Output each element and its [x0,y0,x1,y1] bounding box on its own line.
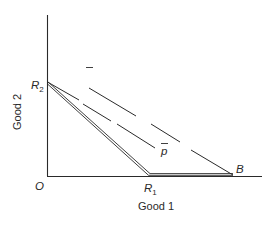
origin-label: O [35,180,44,192]
point-label-r2: R2 [31,79,44,94]
svg-text:p: p [160,145,168,157]
price-line-upper [89,88,233,175]
price-line-lower [48,82,156,148]
x-axis-label: Good 1 [138,200,174,212]
y-axis-label: Good 2 [11,94,23,130]
price-label-lower: p [160,144,168,158]
trade-diagram: R2 R1 B O p Good 1 Good 2 [0,0,272,228]
point-label-r1: R1 [144,182,157,197]
production-frontier [48,82,234,176]
point-label-b: B [236,163,244,175]
